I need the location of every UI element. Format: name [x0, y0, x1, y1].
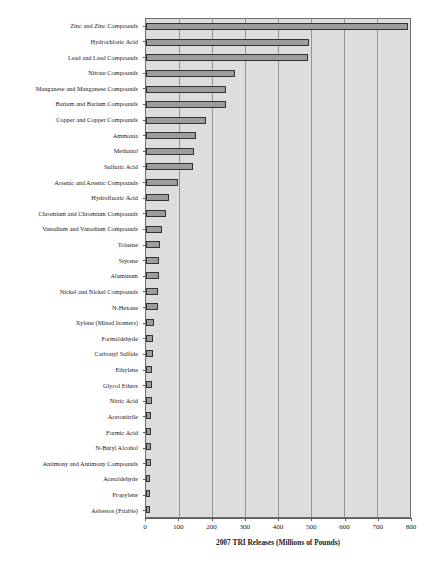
bar-row [146, 206, 410, 222]
category-label-row: Styrene [0, 252, 141, 268]
category-label: Barium and Barium Compounds [55, 100, 141, 107]
bar [146, 210, 166, 217]
x-tick-label: 400 [273, 522, 284, 532]
category-label-row: Ammonia [0, 127, 141, 143]
category-label-row: Zinc and Zinc Compounds [0, 18, 141, 34]
bar [146, 303, 158, 310]
category-label-row: Antimony and Antimony Compounds [0, 456, 141, 472]
bar-row [146, 346, 410, 362]
category-label-row: Methanol [0, 143, 141, 159]
category-label: Acetonitrile [108, 413, 141, 420]
bar [146, 412, 151, 419]
category-label-row: Acetonitrile [0, 409, 141, 425]
bar [146, 428, 151, 435]
category-label: Propylene [112, 491, 141, 498]
category-label: Nitrate Compounds [88, 69, 141, 76]
bar [146, 506, 150, 513]
category-axis-labels: Zinc and Zinc CompoundsHydrochloric Acid… [0, 18, 141, 518]
bar [146, 459, 151, 466]
bar [146, 350, 153, 357]
bar-row [146, 439, 410, 455]
category-label-row: Formic Acid [0, 424, 141, 440]
bar-row [146, 128, 410, 144]
bar [146, 117, 206, 124]
category-label-row: Manganese and Manganese Compounds [0, 81, 141, 97]
bar-row [146, 221, 410, 237]
x-axis-title: 2007 TRI Releases (Millions of Pounds) [145, 538, 411, 547]
category-label: Vanadium and Vanadium Compounds [42, 225, 141, 232]
category-label-row: Sulfuric Acid [0, 159, 141, 175]
bar-row [146, 455, 410, 471]
category-label-row: Chromium and Chromium Compounds [0, 206, 141, 222]
bar [146, 179, 178, 186]
category-label-row: Hydrofluoric Acid [0, 190, 141, 206]
bar [146, 148, 194, 155]
bar-row [146, 486, 410, 502]
x-tick [411, 518, 412, 521]
bar [146, 226, 162, 233]
category-label: Antimony and Antimony Compounds [42, 460, 141, 467]
bar-row [146, 237, 410, 253]
bars-container [146, 19, 410, 517]
bar [146, 54, 308, 61]
bar [146, 194, 169, 201]
category-label-row: Copper and Copper Compounds [0, 112, 141, 128]
plot-wrapper: Zinc and Zinc CompoundsHydrochloric Acid… [0, 0, 430, 566]
x-tick [278, 518, 279, 521]
x-tick [178, 518, 179, 521]
x-tick [311, 518, 312, 521]
x-tick-label: 600 [339, 522, 350, 532]
bar-row [146, 393, 410, 409]
category-label: Hydrochloric Acid [91, 38, 141, 45]
bar-row [146, 252, 410, 268]
category-label: Ethylene [115, 366, 141, 373]
x-tick [378, 518, 379, 521]
category-label: Nickel and Nickel Compounds [60, 288, 141, 295]
category-label-row: Asbestos (Friable) [0, 502, 141, 518]
category-label-row: Aluminum [0, 268, 141, 284]
x-tick [245, 518, 246, 521]
category-label-row: Toluene [0, 237, 141, 253]
category-label-row: Lead and Lead Compounds [0, 49, 141, 65]
bar [146, 163, 193, 170]
category-label: Hydrofluoric Acid [91, 194, 141, 201]
x-tick [212, 518, 213, 521]
category-label: Ammonia [113, 132, 141, 139]
bar [146, 490, 150, 497]
bar [146, 132, 196, 139]
bar-row [146, 19, 410, 35]
bar [146, 288, 158, 295]
bar-row [146, 81, 410, 97]
bar-row [146, 190, 410, 206]
category-label: Copper and Copper Compounds [56, 116, 141, 123]
category-label-row: Carbonyl Sulfide [0, 346, 141, 362]
bar-row [146, 175, 410, 191]
category-label: Lead and Lead Compounds [68, 54, 141, 61]
bar-row [146, 501, 410, 517]
x-tick-label: 700 [373, 522, 384, 532]
bar [146, 381, 152, 388]
category-label-row: Propylene [0, 487, 141, 503]
category-label-row: Hydrochloric Acid [0, 34, 141, 50]
bar-row [146, 377, 410, 393]
category-label-row: Arsenic and Arsenic Compounds [0, 174, 141, 190]
x-tick-label: 200 [206, 522, 217, 532]
plot-area [145, 18, 411, 518]
category-label: Formic Acid [106, 429, 141, 436]
category-label: Sulfuric Acid [104, 163, 141, 170]
category-label: Styrene [119, 257, 141, 264]
category-label-row: Formaldehyde [0, 331, 141, 347]
category-label-row: Nitric Acid [0, 393, 141, 409]
bar-row [146, 284, 410, 300]
category-label-row: Glycol Ethers [0, 377, 141, 393]
bar-row [146, 97, 410, 113]
x-tick-label: 500 [306, 522, 317, 532]
category-label-row: Acetaldehyde [0, 471, 141, 487]
x-tick-label: 100 [173, 522, 184, 532]
bar-row [146, 470, 410, 486]
category-label: Xylene (Mixed Isomers) [76, 319, 141, 326]
bar-row [146, 50, 410, 66]
category-label: Methanol [114, 147, 141, 154]
bar-row [146, 35, 410, 51]
bar [146, 257, 159, 264]
